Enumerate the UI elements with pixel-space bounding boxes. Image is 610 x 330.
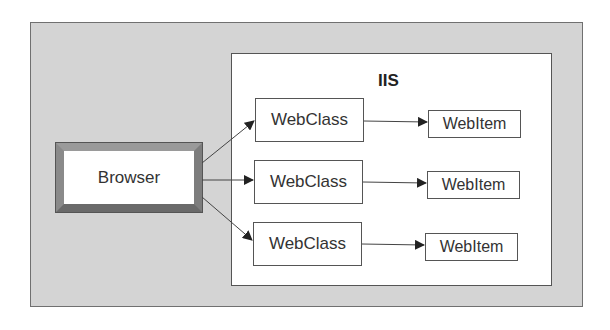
arrow-webclass-webitem-3 (362, 244, 424, 245)
arrow-webclass-webitem-2 (363, 182, 426, 183)
connector-arrows (0, 0, 610, 330)
arrow-webclass-webitem-1 (364, 121, 427, 122)
arrow-browser-webclass-1 (202, 121, 254, 163)
arrow-browser-webclass-3 (202, 197, 252, 240)
